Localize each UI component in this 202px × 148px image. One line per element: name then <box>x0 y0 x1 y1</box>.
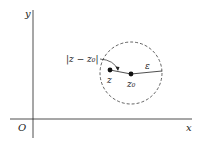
point-z0-label: z₀ <box>126 79 136 89</box>
origin-label: O <box>18 122 26 133</box>
point-z <box>108 68 113 73</box>
arrowhead-icon <box>116 67 120 72</box>
radius-label: ε <box>145 61 150 71</box>
diagram-canvas: y x O |z − z₀| z z₀ ε <box>0 0 202 148</box>
y-axis-label: y <box>24 8 31 19</box>
x-axis-label: x <box>186 122 192 133</box>
point-z0 <box>129 72 134 77</box>
point-z-label: z <box>106 75 112 85</box>
epsilon-neighborhood-diagram: y x O |z − z₀| z z₀ ε <box>0 0 202 148</box>
distance-label: |z − z₀| <box>66 54 98 65</box>
